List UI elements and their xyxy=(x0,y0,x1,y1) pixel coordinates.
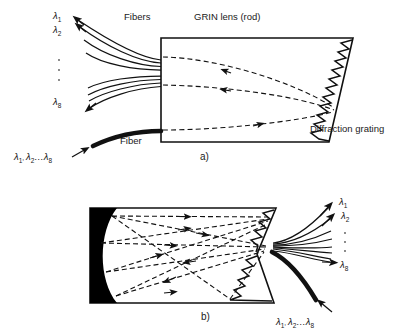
fiber-5 xyxy=(88,76,161,88)
ellipsis-dots-b xyxy=(344,232,346,252)
arrow-lambda1 xyxy=(76,19,84,26)
fiber-7 xyxy=(89,83,161,101)
label-diffraction-grating: Diffraction grating xyxy=(310,123,384,134)
label-lambda-8-b: λ8 xyxy=(339,259,349,272)
panel-a: Fibers GRIN lens (rod) Diffraction grati… xyxy=(13,10,384,164)
ellipsis-dots-a xyxy=(58,59,60,81)
input-fiber-a xyxy=(72,131,161,157)
panel-a-caption: a) xyxy=(200,151,209,162)
arrow-b-lambda8 xyxy=(322,262,334,263)
arrow-b-lambda2 xyxy=(322,216,332,226)
arrow-lambda2 xyxy=(78,26,86,33)
label-lambda-1-b: λ1 xyxy=(338,196,348,209)
label-lambda-1-a: λ1 xyxy=(52,10,62,23)
fiber-bundle-b xyxy=(273,208,332,262)
label-lambda-8-a: λ8 xyxy=(52,96,62,109)
fiber-1 xyxy=(78,20,161,60)
panel-b-caption: b) xyxy=(201,311,210,322)
fiber-output-arrows-a xyxy=(76,19,96,110)
fiber-bundle-a xyxy=(78,20,161,108)
label-fiber: Fiber xyxy=(120,135,142,146)
figure-canvas: Fibers GRIN lens (rod) Diffraction grati… xyxy=(0,0,407,332)
label-fibers: Fibers xyxy=(124,11,151,22)
label-lambda-2-b: λ2 xyxy=(340,210,350,223)
optical-demultiplexer-figure: Fibers GRIN lens (rod) Diffraction grati… xyxy=(0,0,407,332)
input-arrow-a xyxy=(72,149,86,157)
label-grin-lens: GRIN lens (rod) xyxy=(194,11,261,22)
arrow-lambda8 xyxy=(88,103,96,110)
ray-b2r-arrow xyxy=(164,245,174,246)
input-label-a: λ1, λ2…λ8 xyxy=(13,151,52,164)
label-lambda-2-a: λ2 xyxy=(52,24,62,37)
input-label-b: λ1, λ2…λ8 xyxy=(275,316,314,329)
input-arrow-b xyxy=(320,302,332,312)
arrow-b-lambda1 xyxy=(320,205,330,216)
panel-b: λ1 λ2 λ8 λ1, λ2…λ8 b) xyxy=(90,196,350,329)
fiber-3 xyxy=(84,40,161,67)
fiber-output-arrows-b xyxy=(320,205,334,263)
